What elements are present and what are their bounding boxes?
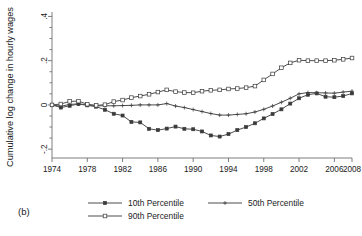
legend-item-label: 50th Percentile [248,198,304,208]
series-marker [333,58,337,62]
series-marker [156,129,159,132]
series-marker [201,130,204,133]
series-marker [156,90,160,94]
series-marker [165,127,168,130]
y-tick-label: .4 [40,13,49,20]
series-marker [297,58,301,62]
series-90th-percentile [50,56,354,107]
series-marker [289,102,292,105]
series-marker [324,59,328,63]
series-marker [147,92,151,96]
x-tick-label: 2006 [325,165,344,174]
x-tick-label: 2008 [343,165,362,174]
series-marker [280,108,283,111]
series-marker [174,90,178,94]
y-tick-label: -.2 [40,144,49,154]
y-axis-label-text: Cumulative log change in hourly wages [5,7,15,167]
series-marker [121,114,124,117]
x-tick-label: 1998 [255,165,274,174]
legend-swatch-marker [103,214,107,218]
series-marker [244,86,248,90]
series-marker [103,108,106,111]
series-marker [218,88,222,92]
series-marker [262,117,265,120]
series-marker [218,135,221,138]
series-marker [85,102,89,106]
series-marker [165,88,169,92]
figure-panel: Cumulative log change in hourly wages -.… [0,0,362,236]
series-marker [183,127,186,130]
series-marker [121,98,125,102]
legend-item-10th-percentile[interactable]: 10th Percentile [88,198,184,208]
x-axis-ticks: 1974197819821986199019941998200220062008 [43,158,362,174]
series-marker [262,78,266,82]
chart-axes [52,12,352,158]
legend-item-50th-percentile[interactable]: 50th Percentile [208,198,304,208]
legend-swatch-marker [104,202,107,205]
series-marker [192,128,195,131]
series-marker [227,133,230,136]
series-marker [191,91,195,95]
series-polyline [52,58,352,105]
series-marker [59,102,63,106]
series-marker [139,121,142,124]
series-10th-percentile [51,92,354,138]
series-marker [280,66,284,70]
series-marker [130,120,133,123]
series-marker [94,104,98,108]
series-marker [253,122,256,125]
series-marker [138,94,142,98]
series-marker [315,59,319,63]
series-marker [130,96,134,100]
y-tick-label: .2 [40,57,49,64]
series-marker [236,129,239,132]
series-marker [209,89,213,93]
y-tick-label: 0 [40,102,49,107]
series-marker [245,126,248,129]
legend-item-90th-percentile[interactable]: 90th Percentile [88,211,184,221]
series-marker [306,59,310,63]
series-marker [235,87,239,91]
series-marker [50,103,54,107]
series-marker [333,96,336,99]
series-marker [209,134,212,137]
percentile-wage-change-line-chart: Cumulative log change in hourly wages -.… [0,0,362,236]
series-marker [271,112,274,115]
series-marker [112,112,115,115]
x-tick-label: 1974 [43,165,62,174]
series-marker [324,95,327,98]
series-marker [298,97,301,100]
series-marker [103,103,107,107]
x-tick-label: 1982 [113,165,132,174]
series-marker [200,89,204,93]
x-tick-label: 1978 [78,165,97,174]
y-axis-ticks: -.20.2.4 [40,13,52,154]
series-marker [77,99,81,103]
series-marker [253,84,257,88]
series-marker [148,127,151,130]
series-marker [112,100,116,104]
panel-label: (b) [18,206,30,217]
series-marker [68,100,72,104]
series-marker [350,56,354,60]
series-marker [271,72,275,76]
series-marker [288,61,292,65]
x-tick-label: 1986 [149,165,168,174]
chart-series-layer [50,56,354,138]
legend-item-label: 10th Percentile [128,198,184,208]
chart-legend: 10th Percentile50th Percentile90th Perce… [88,198,304,221]
series-marker [174,125,177,128]
y-axis-label: Cumulative log change in hourly wages [5,7,15,167]
series-marker [227,87,231,91]
x-tick-label: 1990 [184,165,203,174]
x-tick-label: 2002 [290,165,309,174]
series-marker [342,95,345,98]
x-tick-label: 1994 [219,165,238,174]
legend-item-label: 90th Percentile [128,211,184,221]
series-marker [341,58,345,62]
series-marker [183,91,187,95]
